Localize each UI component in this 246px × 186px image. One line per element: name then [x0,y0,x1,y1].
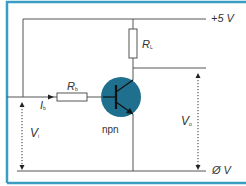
supply-voltage-label: +5 V [211,13,234,24]
ib-arrow-icon [48,95,54,100]
vo-arrow-down-icon [196,165,201,170]
diagram-frame: +5 V Ø V RL Rb Ib Vi Vo npn [0,0,246,186]
circuit-schematic [0,0,246,186]
rl-label: RL [142,39,153,50]
ib-label: Ib [40,100,46,111]
rl-resistor [129,29,137,58]
vi-label: Vi [30,127,39,139]
vi-arrow-down-icon [20,165,25,170]
vo-arrow-up-icon [196,73,201,78]
rb-label: Rb [67,81,78,92]
ground-voltage-label: Ø V [212,165,231,176]
vo-label: Vo [181,115,192,127]
rb-resistor [57,93,87,101]
vi-arrow-up-icon [20,102,25,107]
transistor-type-label: npn [102,125,119,135]
